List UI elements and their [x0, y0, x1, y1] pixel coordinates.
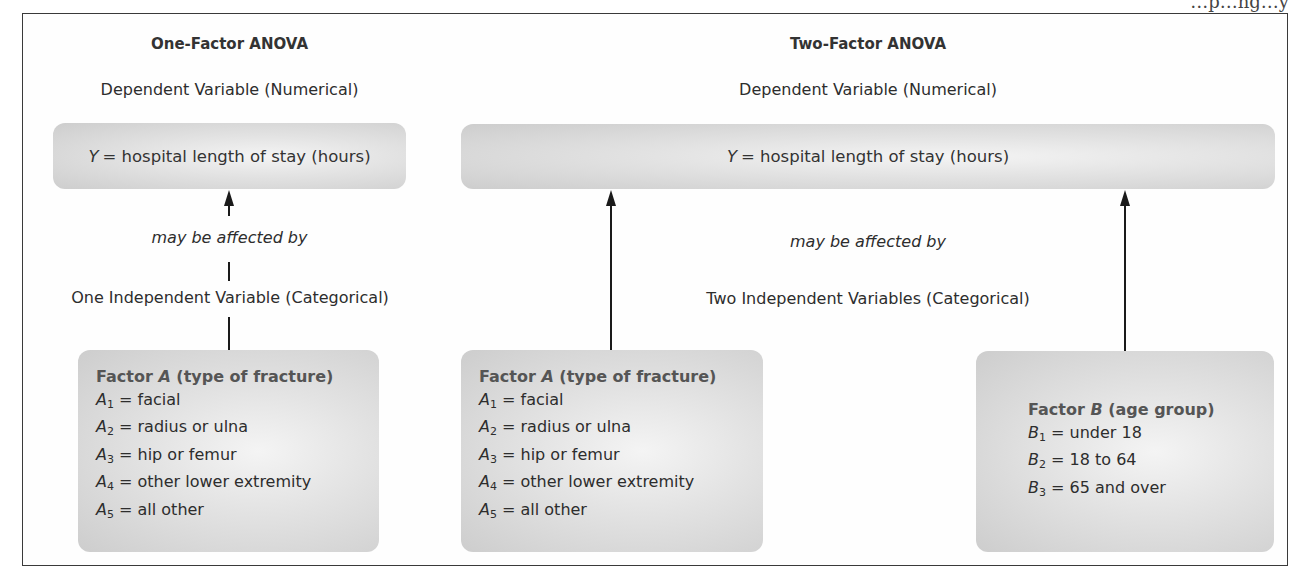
factor-level: A5 = all other — [96, 499, 379, 527]
connector-line — [610, 200, 612, 351]
factor-level: A4 = other lower extremity — [96, 471, 379, 499]
factor-level: A3 = hip or femur — [479, 444, 763, 472]
y-symbol: Y — [727, 147, 737, 166]
factor-level: A2 = radius or ulna — [96, 416, 379, 444]
factor-level: B3 = 65 and over — [1028, 477, 1274, 505]
two-factor-factor-a-box: Factor A (type of fracture) A1 = facial … — [461, 350, 763, 552]
factor-level: A4 = other lower extremity — [479, 471, 763, 499]
two-factor-factor-b-box: Factor B (age group) B1 = under 18 B2 = … — [976, 351, 1274, 552]
one-factor-title: One-Factor ANOVA — [53, 35, 406, 53]
one-factor-y-box: Y = hospital length of stay (hours) — [53, 123, 406, 189]
two-factor-independent-label: Two Independent Variables (Categorical) — [461, 289, 1275, 308]
two-factor-title: Two-Factor ANOVA — [461, 35, 1275, 53]
factor-level: A1 = facial — [96, 389, 379, 417]
factor-level: A3 = hip or femur — [96, 444, 379, 472]
connector-line — [228, 200, 230, 216]
connector-line — [228, 317, 230, 351]
connector-line — [1124, 200, 1126, 351]
factor-level: B1 = under 18 — [1028, 422, 1274, 450]
two-factor-y-box: Y = hospital length of stay (hours) — [461, 124, 1275, 189]
factor-level: B2 = 18 to 64 — [1028, 449, 1274, 477]
factor-b-heading: Factor B (age group) — [1028, 399, 1274, 422]
two-factor-relation-label: may be affected by — [461, 232, 1275, 251]
y-description: = hospital length of stay (hours) — [741, 147, 1009, 166]
factor-a-heading: Factor A (type of fracture) — [479, 366, 763, 389]
factor-level: A5 = all other — [479, 499, 763, 527]
y-symbol: Y — [88, 147, 98, 166]
one-factor-dependent-label: Dependent Variable (Numerical) — [53, 80, 406, 99]
one-factor-independent-label: One Independent Variable (Categorical) — [30, 288, 430, 307]
factor-level: A1 = facial — [479, 389, 763, 417]
factor-level: A2 = radius or ulna — [479, 416, 763, 444]
connector-line — [228, 262, 230, 281]
one-factor-relation-label: may be affected by — [53, 228, 406, 247]
y-description: = hospital length of stay (hours) — [102, 147, 370, 166]
two-factor-dependent-label: Dependent Variable (Numerical) — [461, 80, 1275, 99]
running-header-clipped: …p…ng…y — [1190, 0, 1289, 12]
one-factor-factor-a-box: Factor A (type of fracture) A1 = facial … — [78, 350, 379, 552]
factor-a-heading: Factor A (type of fracture) — [96, 366, 379, 389]
